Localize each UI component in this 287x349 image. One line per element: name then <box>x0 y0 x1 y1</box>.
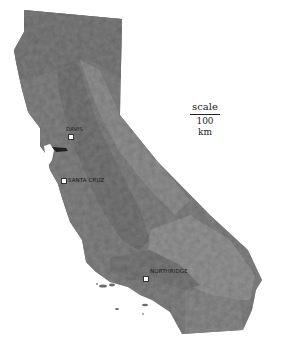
scale-bar: scale 100 km <box>188 101 222 138</box>
california-relief-map <box>0 0 287 349</box>
city-label: DAVIS <box>66 126 83 132</box>
city-label: NORTHRIDGE <box>150 268 188 274</box>
scale-rule <box>190 114 220 115</box>
city-marker-icon <box>61 178 67 184</box>
scale-distance: 100 km <box>188 116 222 138</box>
city-marker-icon <box>143 276 149 282</box>
city-label: SANTA CRUZ <box>68 177 104 183</box>
state-landmass <box>0 0 287 349</box>
city-marker-icon <box>68 134 74 140</box>
scale-label: scale <box>188 101 222 113</box>
